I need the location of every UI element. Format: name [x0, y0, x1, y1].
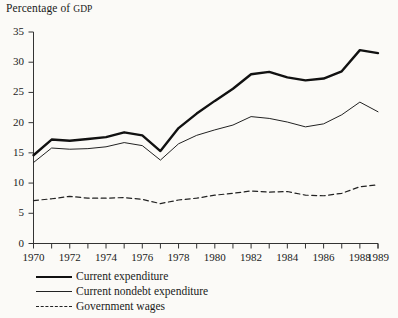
- x-tick-label: 1982: [234, 251, 268, 263]
- legend-item: Current nondebt expenditure: [36, 283, 208, 298]
- legend-label-government-wages: Government wages: [76, 300, 165, 312]
- y-tick-label: 15: [2, 146, 24, 158]
- x-tick-label: 1970: [17, 251, 51, 263]
- y-tick-label: 30: [2, 55, 24, 67]
- legend-swatch-government-wages: [36, 300, 72, 312]
- legend-swatch-current-expenditure: [36, 270, 72, 282]
- series-line-current-expenditure: [34, 50, 379, 155]
- x-tick-label: 1980: [198, 251, 232, 263]
- x-tick-label: 1978: [162, 251, 196, 263]
- y-tick-label: 5: [2, 206, 24, 218]
- y-tick-label: 10: [2, 176, 24, 188]
- x-tick-label: 1984: [270, 251, 304, 263]
- y-tick-label: 35: [2, 25, 24, 37]
- x-tick-label: 1986: [307, 251, 341, 263]
- x-tick-label: 1976: [125, 251, 159, 263]
- figure: Percentage of GDP 05101520253035 1970197…: [0, 0, 398, 318]
- data-series-layer: [34, 50, 379, 203]
- series-line-government-wages: [34, 185, 379, 204]
- x-tick-label: 1972: [53, 251, 87, 263]
- legend-label-current-expenditure: Current expenditure: [76, 270, 168, 282]
- y-axis-ticks: [29, 32, 34, 244]
- legend-label-current-nondebt-expenditure: Current nondebt expenditure: [76, 285, 208, 297]
- axis-frame: [34, 32, 379, 244]
- chart-legend: Current expenditure Current nondebt expe…: [36, 268, 208, 313]
- x-tick-label: 1989: [361, 251, 395, 263]
- x-tick-label: 1974: [89, 251, 123, 263]
- legend-swatch-current-nondebt-expenditure: [36, 285, 72, 297]
- x-axis-ticks: [34, 244, 379, 249]
- y-tick-label: 0: [2, 237, 24, 249]
- series-line-current-nondebt-expenditure: [34, 102, 379, 162]
- legend-item: Current expenditure: [36, 268, 208, 283]
- legend-item: Government wages: [36, 298, 208, 313]
- y-tick-label: 20: [2, 116, 24, 128]
- y-tick-label: 25: [2, 85, 24, 97]
